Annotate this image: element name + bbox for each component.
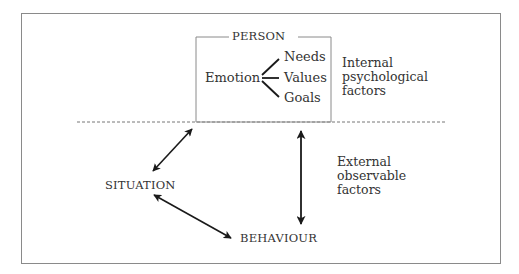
- diagram-canvas: PERSON Emotion Needs Values Goals Intern…: [0, 0, 519, 274]
- situation-node: SITUATION: [105, 180, 176, 192]
- goals-label: Goals: [284, 91, 321, 104]
- internal-line-3: factors: [342, 84, 428, 98]
- needs-label: Needs: [284, 50, 326, 63]
- branch-line-needs: [262, 59, 279, 75]
- behaviour-node: BEHAVIOUR: [240, 233, 317, 245]
- external-line-2: observable: [337, 169, 406, 183]
- internal-line-2: psychological: [342, 70, 428, 84]
- person-title: PERSON: [229, 31, 288, 43]
- external-factors-label: External observable factors: [337, 155, 406, 197]
- internal-line-1: Internal: [342, 56, 428, 70]
- external-line-3: factors: [337, 183, 406, 197]
- branch-line-goals: [262, 81, 279, 97]
- external-line-1: External: [337, 155, 406, 169]
- internal-factors-label: Internal psychological factors: [342, 56, 428, 98]
- arrow-situation-behaviour: [154, 195, 231, 238]
- arrow-person-situation: [153, 129, 192, 171]
- values-label: Values: [284, 71, 327, 84]
- emotion-label: Emotion: [205, 71, 260, 84]
